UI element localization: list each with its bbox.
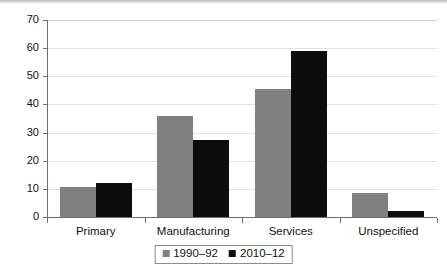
bar <box>60 187 96 217</box>
x-tick-mark <box>145 218 146 223</box>
x-tick-mark <box>437 218 438 223</box>
y-tick-label: 40 <box>27 98 39 109</box>
legend-entry-1: 2010–12 <box>229 248 285 260</box>
y-tick-label: 20 <box>27 155 39 166</box>
plot-area <box>47 20 437 217</box>
bar <box>255 89 291 217</box>
y-tick-label: 50 <box>27 70 39 81</box>
bar-chart: 010203040506070 PrimaryManufacturingServ… <box>0 0 447 273</box>
bar <box>352 193 388 217</box>
y-tick-label: 70 <box>27 14 39 25</box>
x-axis-category-label: Unspecified <box>340 226 438 238</box>
legend-swatch-icon-series-1 <box>229 250 236 257</box>
legend-swatch-icon-series-0 <box>162 250 169 257</box>
bar <box>157 116 193 217</box>
legend-entry-0: 1990–92 <box>162 248 218 260</box>
legend-label-series-0: 1990–92 <box>173 248 218 260</box>
scan-artifact-band <box>0 0 447 4</box>
x-axis-category-label: Primary <box>47 226 145 238</box>
legend-label-series-1: 2010–12 <box>240 248 285 260</box>
legend: 1990–92 2010–12 <box>154 245 293 264</box>
bar <box>96 183 132 217</box>
bar <box>291 51 327 217</box>
x-axis-category-label: Services <box>242 226 340 238</box>
bar <box>388 211 424 217</box>
x-axis-category-label: Manufacturing <box>145 226 243 238</box>
bar <box>193 140 229 217</box>
y-tick-label: 0 <box>33 211 39 222</box>
y-tick-label: 30 <box>27 127 39 138</box>
y-tick-label: 10 <box>27 183 39 194</box>
y-tick-label: 60 <box>27 42 39 53</box>
x-tick-mark <box>242 218 243 223</box>
x-tick-mark <box>340 218 341 223</box>
x-tick-mark <box>47 218 48 223</box>
